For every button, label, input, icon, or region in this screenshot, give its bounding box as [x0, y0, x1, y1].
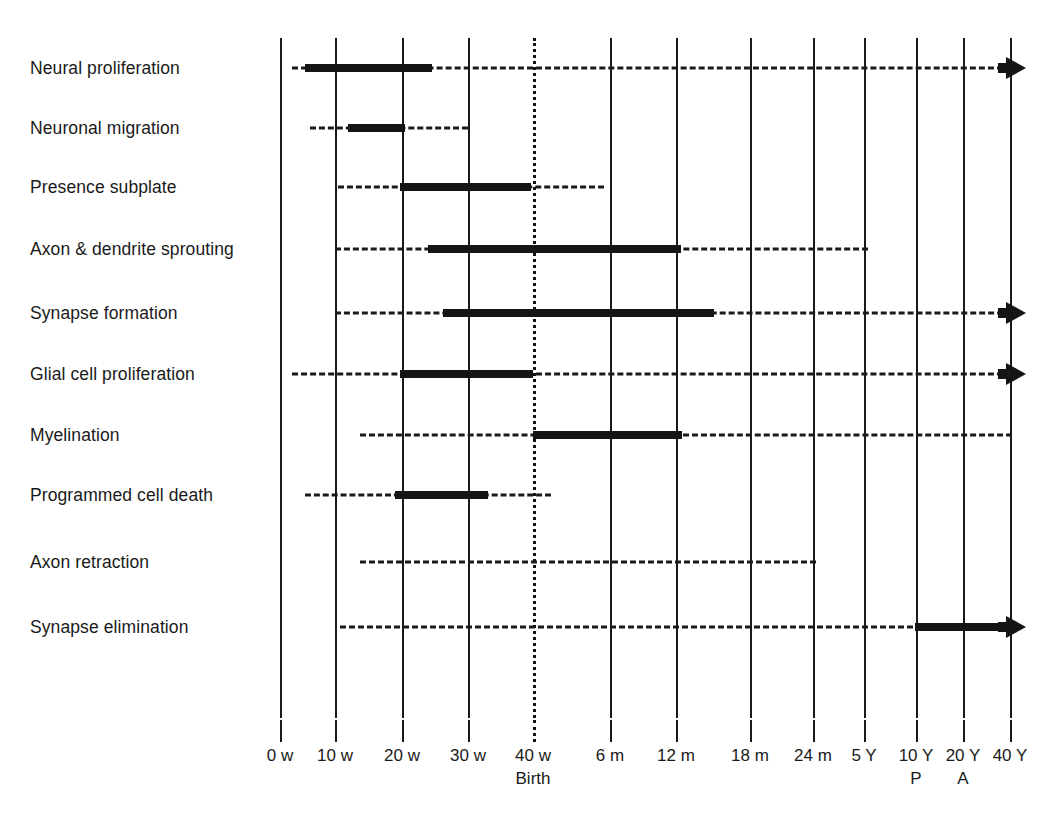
- gridline-40-w: [533, 38, 536, 718]
- gridline-30-w: [468, 38, 470, 718]
- peak-bar: [395, 491, 488, 499]
- tick-mark-12: [1010, 720, 1012, 742]
- tick-mark-7: [750, 720, 752, 742]
- gridline-10-w: [335, 38, 337, 718]
- gridline-18-m: [750, 38, 752, 718]
- tick-label-4: 40 w: [515, 746, 551, 766]
- tick-mark-3: [468, 720, 470, 742]
- tick-sublabel-10: P: [910, 769, 921, 789]
- dashed-span: [360, 434, 1012, 437]
- peak-bar: [915, 623, 1002, 631]
- gridline-24-m: [813, 38, 815, 718]
- gridline-12-m: [676, 38, 678, 718]
- gridline-20-y: [963, 38, 965, 718]
- tick-mark-6: [676, 720, 678, 742]
- tick-sublabel-4: Birth: [516, 769, 551, 789]
- dashed-span: [360, 561, 816, 564]
- gridline-5-y: [864, 38, 866, 718]
- gridline-6-m: [610, 38, 612, 718]
- gridline-10-y: [916, 38, 918, 718]
- peak-bar: [348, 124, 405, 132]
- tick-sublabel-11: A: [957, 769, 968, 789]
- tick-label-10: 10 Y: [899, 746, 934, 766]
- tick-mark-11: [963, 720, 965, 742]
- tick-mark-2: [402, 720, 404, 742]
- continues-arrow-icon: [1006, 616, 1026, 638]
- peak-bar: [305, 64, 432, 72]
- tick-label-3: 30 w: [450, 746, 486, 766]
- peak-bar: [533, 431, 682, 439]
- tick-label-2: 20 w: [384, 746, 420, 766]
- peak-bar: [428, 245, 681, 253]
- continues-arrow-icon: [1006, 57, 1026, 79]
- continues-arrow-icon: [1006, 363, 1026, 385]
- tick-mark-4: [533, 720, 536, 742]
- arrow-stub: [998, 369, 1008, 379]
- tick-label-8: 24 m: [794, 746, 832, 766]
- tick-label-7: 18 m: [731, 746, 769, 766]
- tick-label-5: 6 m: [596, 746, 624, 766]
- peak-bar: [400, 370, 533, 378]
- dashed-span: [340, 626, 1012, 629]
- tick-label-6: 12 m: [657, 746, 695, 766]
- arrow-stub: [998, 622, 1008, 632]
- tick-label-1: 10 w: [317, 746, 353, 766]
- plot-area: [0, 0, 1063, 818]
- gridline-20-w: [402, 38, 404, 718]
- arrow-stub: [998, 63, 1008, 73]
- developmental-timeline-chart: Neural proliferationNeuronal migrationPr…: [0, 0, 1063, 818]
- tick-mark-5: [610, 720, 612, 742]
- continues-arrow-icon: [1006, 302, 1026, 324]
- tick-label-12: 40 Y: [993, 746, 1028, 766]
- tick-mark-8: [813, 720, 815, 742]
- tick-label-11: 20 Y: [946, 746, 981, 766]
- arrow-stub: [998, 308, 1008, 318]
- peak-bar: [443, 309, 714, 317]
- tick-mark-0: [280, 720, 282, 742]
- tick-label-0: 0 w: [267, 746, 293, 766]
- peak-bar: [400, 183, 531, 191]
- tick-mark-10: [916, 720, 918, 742]
- tick-mark-1: [335, 720, 337, 742]
- tick-label-9: 5 Y: [851, 746, 876, 766]
- gridline-0-w: [280, 38, 282, 718]
- tick-mark-9: [864, 720, 866, 742]
